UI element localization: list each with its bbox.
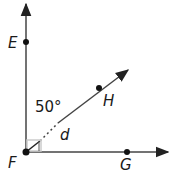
angle-diagram: E F G H 50° d (0, 0, 176, 177)
point-F (23, 149, 30, 156)
label-F: F (8, 154, 17, 172)
ray-FH (58, 70, 128, 123)
point-E (23, 39, 29, 45)
label-E: E (8, 34, 18, 52)
angle-label-HFG: d (60, 126, 70, 144)
point-H (96, 85, 102, 91)
label-G: G (120, 156, 132, 174)
ray-FH-dashed-segment (40, 123, 58, 141)
angle-label-EFH: 50° (35, 98, 62, 116)
point-G (124, 149, 130, 155)
label-H: H (103, 92, 114, 110)
